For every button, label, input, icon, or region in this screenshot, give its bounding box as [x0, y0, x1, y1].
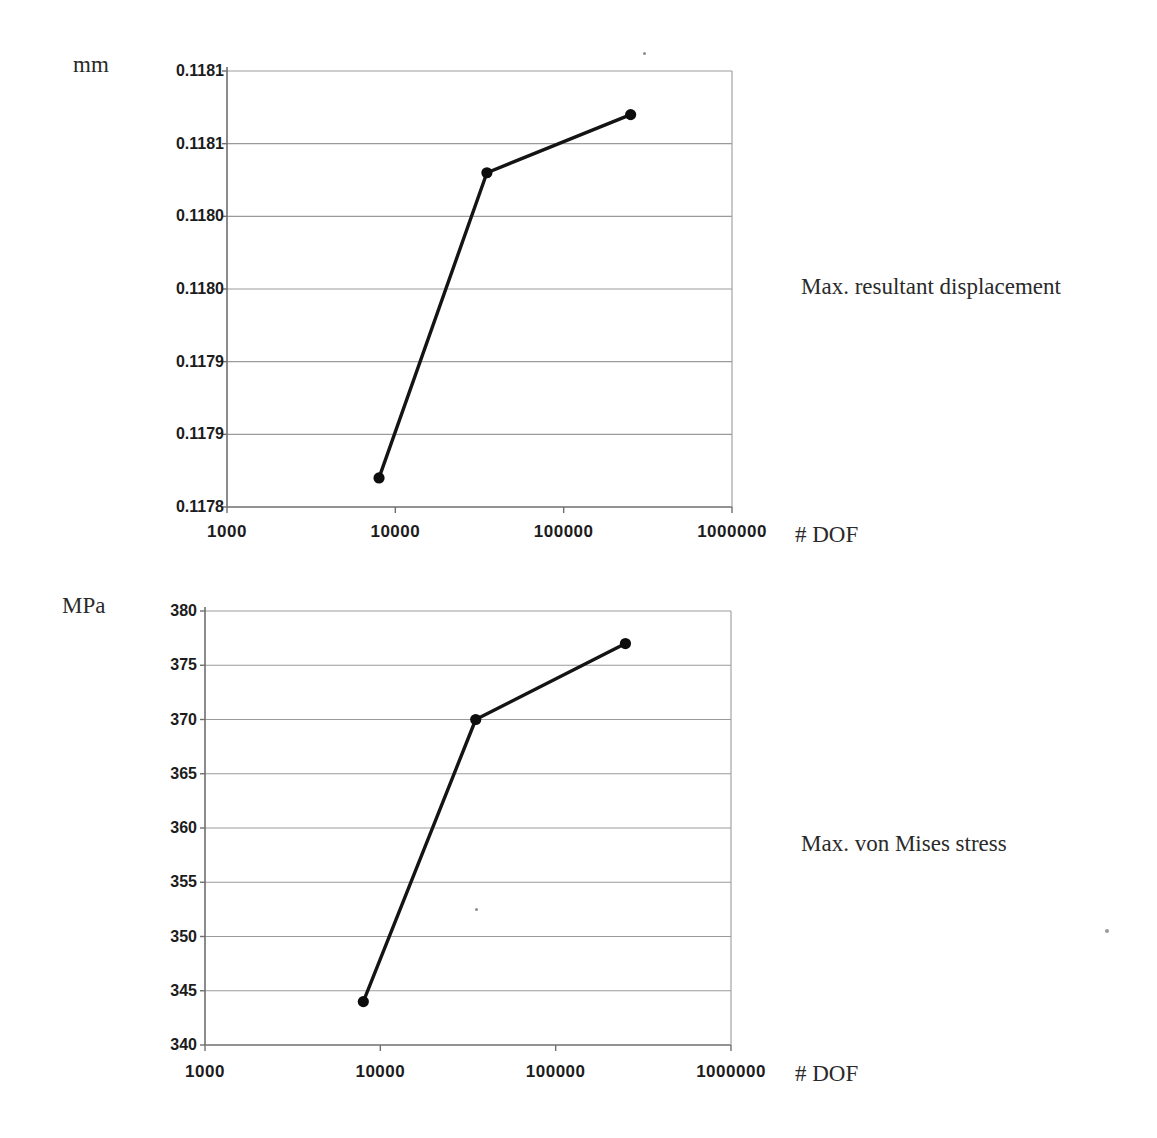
scan-artifact-dot — [643, 52, 646, 55]
displacement-chart-title: Max. resultant displacement — [801, 274, 1061, 300]
scan-artifact-dot — [475, 908, 478, 911]
stress-plot-svg — [193, 599, 743, 1067]
y-tick-label: 340 — [117, 1035, 197, 1055]
y-tick-label: 0.1181 — [144, 61, 224, 81]
x-tick-label: 1000000 — [671, 1062, 791, 1082]
y-tick-label: 380 — [117, 601, 197, 621]
y-tick-label: 0.1181 — [144, 134, 224, 154]
y-tick-label: 370 — [117, 710, 197, 730]
y-tick-label: 360 — [117, 818, 197, 838]
y-tick-label: 345 — [117, 981, 197, 1001]
displacement-x-axis-label: # DOF — [795, 522, 858, 548]
convergence-figure: mm # DOF Max. resultant displacement 0.1… — [0, 0, 1157, 1138]
data-point-marker — [358, 996, 369, 1007]
series-line — [363, 644, 625, 1002]
data-point-marker — [620, 638, 631, 649]
data-point-marker — [625, 109, 636, 120]
data-point-marker — [373, 472, 384, 483]
stress-chart-title: Max. von Mises stress — [801, 831, 1007, 857]
y-tick-label: 0.1180 — [144, 206, 224, 226]
y-tick-label: 375 — [117, 655, 197, 675]
y-tick-label: 365 — [117, 764, 197, 784]
y-tick-label: 350 — [117, 927, 197, 947]
x-tick-label: 1000000 — [672, 522, 792, 542]
displacement-plot-svg — [215, 59, 744, 529]
x-tick-label: 10000 — [320, 1062, 440, 1082]
scan-artifact-dot — [1105, 929, 1109, 933]
data-point-marker — [481, 167, 492, 178]
x-tick-label: 1000 — [145, 1062, 265, 1082]
stress-y-unit-label: MPa — [62, 593, 105, 619]
x-tick-label: 10000 — [335, 522, 455, 542]
x-tick-label: 1000 — [167, 522, 287, 542]
displacement-y-unit-label: mm — [73, 52, 109, 78]
data-point-marker — [470, 714, 481, 725]
x-tick-label: 100000 — [496, 1062, 616, 1082]
y-tick-label: 0.1179 — [144, 352, 224, 372]
y-tick-label: 355 — [117, 872, 197, 892]
series-line — [379, 115, 631, 478]
stress-x-axis-label: # DOF — [795, 1061, 858, 1087]
x-tick-label: 100000 — [504, 522, 624, 542]
y-tick-label: 0.1180 — [144, 279, 224, 299]
y-tick-label: 0.1179 — [144, 424, 224, 444]
y-tick-label: 0.1178 — [144, 497, 224, 517]
